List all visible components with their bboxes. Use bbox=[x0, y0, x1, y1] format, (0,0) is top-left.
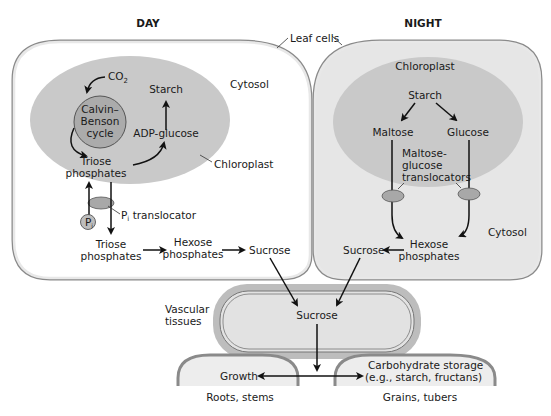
night-title: NIGHT bbox=[404, 17, 442, 29]
day-chloroplast-label: Chloroplast bbox=[214, 158, 273, 170]
night-cytosol-label: Cytosol bbox=[488, 226, 527, 238]
grains-tubers-label: Grains, tubers bbox=[383, 391, 457, 403]
translocators-line-3: translocators bbox=[402, 171, 471, 183]
night-hexose-line-2: phosphates bbox=[398, 250, 459, 262]
day-hexose-line-2: phosphates bbox=[162, 248, 223, 260]
translocators-line-2: glucose bbox=[402, 159, 442, 171]
leaf-cells-label: Leaf cells bbox=[290, 32, 339, 44]
vascular-sucrose: Sucrose bbox=[296, 309, 338, 321]
carbon-partitioning-diagram: DAY Cytosol Chloroplast Calvin– Benson c… bbox=[0, 0, 551, 416]
day-chloroplast bbox=[30, 56, 230, 184]
growth-label: Growth bbox=[220, 370, 258, 382]
vascular-label-line-1: Vascular bbox=[165, 303, 210, 315]
day-hexose-line-1: Hexose bbox=[174, 236, 212, 248]
day-sucrose: Sucrose bbox=[249, 244, 291, 256]
calvin-line-3: cycle bbox=[86, 127, 113, 139]
day-triose-in-line-1: Triose bbox=[80, 155, 111, 167]
day-triose-out-line-1: Triose bbox=[95, 238, 126, 250]
day-triose-out-line-2: phosphates bbox=[80, 250, 141, 262]
roots-stems-label: Roots, stems bbox=[206, 391, 274, 403]
glucose-translocator bbox=[458, 188, 480, 200]
storage-line-2: (e.g., starch, fructans) bbox=[365, 371, 482, 383]
calvin-line-2: Benson bbox=[81, 115, 120, 127]
calvin-line-1: Calvin– bbox=[81, 103, 119, 115]
day-triose-in-line-2: phosphates bbox=[65, 167, 126, 179]
maltose-translocator bbox=[382, 190, 404, 202]
day-starch: Starch bbox=[149, 83, 183, 95]
adp-glucose: ADP-glucose bbox=[133, 127, 199, 139]
pi-translocator-label: Pi translocator bbox=[121, 209, 197, 223]
translocators-line-1: Maltose- bbox=[402, 147, 447, 159]
vascular-label-line-2: tissues bbox=[165, 315, 202, 327]
night-chloroplast-label: Chloroplast bbox=[395, 60, 454, 72]
day-cytosol-label: Cytosol bbox=[230, 78, 269, 90]
day-title: DAY bbox=[136, 17, 160, 29]
storage-line-1: Carbohydrate storage bbox=[368, 359, 483, 371]
night-hexose-line-1: Hexose bbox=[410, 238, 448, 250]
glucose: Glucose bbox=[447, 126, 489, 138]
night-sucrose: Sucrose bbox=[343, 244, 385, 256]
night-starch: Starch bbox=[408, 89, 442, 101]
maltose: Maltose bbox=[373, 126, 414, 138]
